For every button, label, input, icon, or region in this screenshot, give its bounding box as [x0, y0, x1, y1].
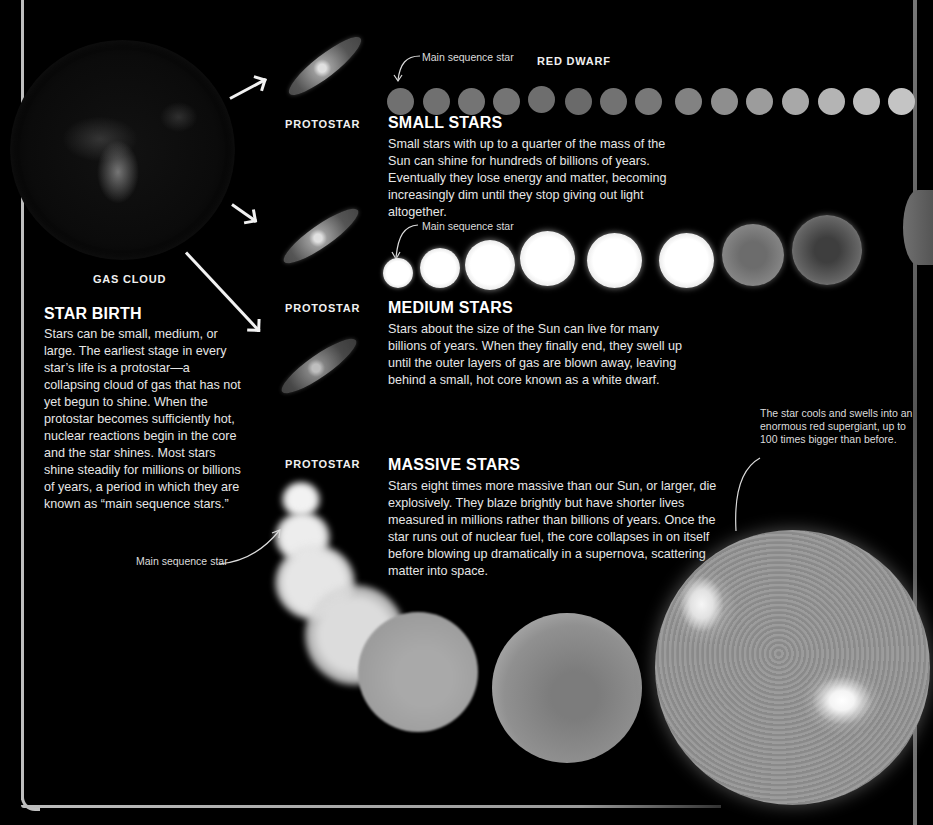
pointer-curve-supergiant — [728, 455, 768, 535]
small-star-stage-9 — [675, 88, 702, 115]
massive-stars-body: Stars eight times more massive than our … — [388, 478, 733, 580]
small-star-stage-3 — [458, 88, 485, 115]
protostar-disc-small — [283, 30, 367, 103]
small-star-stage-1 — [387, 88, 414, 115]
protostar-disc-medium — [278, 201, 364, 271]
medium-star-stage-6 — [659, 233, 714, 288]
small-star-stage-6 — [565, 88, 592, 115]
small-star-stage-15 — [888, 88, 915, 115]
medium-star-stage-4 — [520, 231, 575, 286]
massive-star-stage-6 — [492, 613, 642, 763]
small-star-stage-14 — [853, 88, 880, 115]
protostar-label-small: PROTOSTAR — [285, 118, 360, 130]
medium-star-stage-5 — [587, 233, 642, 288]
small-star-stage-12 — [782, 88, 809, 115]
medium-star-planetary-nebula-edge — [903, 190, 933, 265]
gas-cloud-image — [10, 40, 235, 260]
red-dwarf-label: RED DWARF — [537, 55, 611, 67]
star-birth-body: Stars can be small, medium, or large. Th… — [44, 326, 244, 513]
massive-stars-heading: MASSIVE STARS — [388, 456, 520, 474]
medium-star-stage-7 — [722, 224, 784, 286]
frame-bottom-border — [21, 805, 721, 808]
small-star-stage-8 — [635, 88, 662, 115]
arrow-to-small-protostar — [229, 79, 264, 99]
medium-star-stage-2 — [420, 248, 460, 288]
protostar-disc-massive — [276, 331, 362, 401]
medium-star-stage-1 — [383, 258, 413, 288]
medium-stars-body: Stars about the size of the Sun can live… — [388, 321, 688, 389]
gas-cloud-label: GAS CLOUD — [93, 273, 166, 285]
protostar-label-massive: PROTOSTAR — [285, 458, 360, 470]
small-stars-heading: SMALL STARS — [388, 114, 503, 132]
arrow-to-medium-protostar — [231, 203, 255, 221]
supergiant-note: The star cools and swells into an enormo… — [760, 407, 918, 446]
medium-star-stage-8 — [792, 215, 862, 285]
small-star-stage-2 — [423, 88, 450, 115]
protostar-label-medium: PROTOSTAR — [285, 302, 360, 314]
small-stars-body: Small stars with up to a quarter of the … — [388, 136, 688, 221]
small-star-stage-10 — [711, 88, 738, 115]
medium-star-stage-3 — [465, 240, 515, 290]
medium-stars-heading: MEDIUM STARS — [388, 299, 513, 317]
massive-star-stage-5 — [358, 612, 478, 732]
small-star-stage-11 — [746, 88, 773, 115]
small-star-stage-4 — [493, 88, 520, 115]
small-star-stage-5 — [528, 86, 555, 113]
red-supergiant-image — [655, 530, 930, 805]
arrow-to-massive-protostar — [185, 251, 259, 330]
small-star-stage-13 — [818, 88, 845, 115]
massive-main-sequence-note: Main sequence star — [136, 555, 228, 568]
medium-main-sequence-note: Main sequence star — [422, 220, 514, 233]
star-birth-heading: STAR BIRTH — [44, 305, 142, 323]
small-star-stage-7 — [600, 88, 627, 115]
small-main-sequence-note: Main sequence star — [422, 51, 514, 64]
